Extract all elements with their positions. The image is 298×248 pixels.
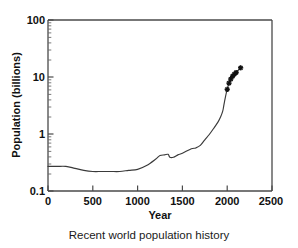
x-axis-major-ticks [48,186,272,192]
x-axis-tick-labels: 0 500 1000 1500 2000 2500 [45,195,283,207]
xtick-label-500: 500 [84,195,102,207]
y-axis-tick-labels: 100 10 1 0.1 [27,14,45,197]
xtick-label-1500: 1500 [170,195,194,207]
y-axis-title: Population (billions) [10,52,22,158]
data-series-group [48,65,243,171]
xtick-label-1000: 1000 [125,195,149,207]
ytick-label-1: 1 [39,128,45,140]
data-point-marker [225,87,230,92]
ytick-label-0.1: 0.1 [30,185,45,197]
xtick-label-0: 0 [45,195,51,207]
xtick-label-2000: 2000 [215,195,239,207]
figure-caption: Recent world population history [69,229,230,241]
y-axis-major-ticks [48,20,54,191]
population-chart: 100 10 1 0.1 0 500 1000 1500 2000 2500 Y… [0,0,298,248]
data-point-marker [238,65,243,70]
data-point-marker [234,70,239,75]
population-curve [48,89,227,171]
xtick-label-2500: 2500 [259,195,283,207]
plot-frame [48,20,272,191]
figure-container: 100 10 1 0.1 0 500 1000 1500 2000 2500 Y… [0,0,298,248]
ytick-label-100: 100 [27,14,45,26]
x-axis-title: Year [148,209,172,221]
ytick-label-10: 10 [33,71,45,83]
projection-markers [225,65,244,92]
